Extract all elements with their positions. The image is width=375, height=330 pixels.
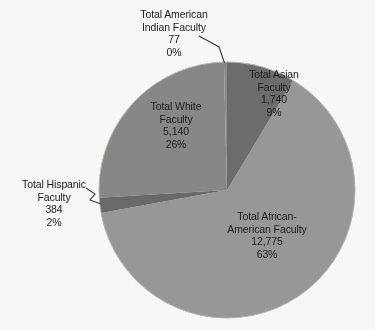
slice-label-asian-percent: 9% bbox=[222, 106, 326, 119]
slice-label-asian-line2: Faculty bbox=[222, 81, 326, 94]
slice-label-african-american: Total African- American Faculty 12,775 6… bbox=[200, 210, 334, 260]
slice-label-african-american-value: 12,775 bbox=[200, 235, 334, 248]
slice-label-hispanic-value: 384 bbox=[2, 203, 106, 216]
slice-label-american-indian: Total American Indian Faculty 77 0% bbox=[104, 8, 244, 58]
slice-label-american-indian-value: 77 bbox=[104, 33, 244, 46]
slice-label-asian-line1: Total Asian bbox=[222, 68, 326, 81]
slice-label-white-value: 5,140 bbox=[123, 125, 229, 138]
slice-label-white: Total White Faculty 5,140 26% bbox=[123, 100, 229, 150]
slice-label-american-indian-percent: 0% bbox=[104, 46, 244, 59]
slice-label-white-line2: Faculty bbox=[123, 113, 229, 126]
slice-label-hispanic-line2: Faculty bbox=[2, 191, 106, 204]
slice-label-american-indian-line2: Indian Faculty bbox=[104, 21, 244, 34]
slice-label-hispanic: Total Hispanic Faculty 384 2% bbox=[2, 178, 106, 228]
slice-label-african-american-line1: Total African- bbox=[200, 210, 334, 223]
slice-label-asian: Total Asian Faculty 1,740 9% bbox=[222, 68, 326, 118]
slice-label-african-american-line2: American Faculty bbox=[200, 223, 334, 236]
pie-chart: Total American Indian Faculty 77 0% Tota… bbox=[0, 0, 375, 330]
slice-label-white-line1: Total White bbox=[123, 100, 229, 113]
slice-label-asian-value: 1,740 bbox=[222, 93, 326, 106]
slice-label-american-indian-line1: Total American bbox=[104, 8, 244, 21]
slice-label-hispanic-line1: Total Hispanic bbox=[2, 178, 106, 191]
slice-label-hispanic-percent: 2% bbox=[2, 216, 106, 229]
slice-label-white-percent: 26% bbox=[123, 138, 229, 151]
slice-label-african-american-percent: 63% bbox=[200, 248, 334, 261]
